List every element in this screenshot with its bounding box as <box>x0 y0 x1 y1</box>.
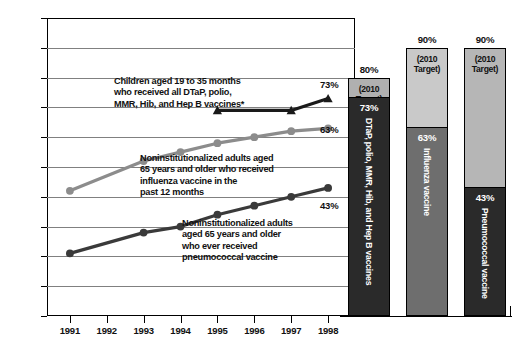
end-label-pneumococcal: 43% <box>320 200 338 211</box>
annotation-line: Children aged 19 to 35 months <box>114 76 244 87</box>
bar-current-segment-influenza: 63%Influenza vaccine <box>407 127 447 315</box>
annotation-dtap: Children aged 19 to 35 monthswho receive… <box>114 76 244 110</box>
bar-current-segment-dtap: 73%DTaP, polio, MMR, Hib, and Hep B vacc… <box>349 97 389 315</box>
chart-canvas: 0%10%20%30%40%50%60%70%80%90%100% 199119… <box>0 0 522 344</box>
bar-baseline-end-tick <box>510 306 511 317</box>
end-label-influenza: 63% <box>320 124 338 135</box>
bar-vertical-label-dtap: DTaP, polio, MMR, Hib, and Hep B vaccine… <box>364 118 374 285</box>
annotation-influenza: Noninstitutionalized adults aged65 years… <box>140 153 274 199</box>
annotation-line: 65 years and older who received <box>140 164 274 175</box>
annotation-line: MMR, Hib, and Hep B vaccines* <box>114 99 244 110</box>
bar-baseline <box>340 316 512 317</box>
bar-target-caption-line: (2010 <box>465 54 505 64</box>
bar-target-segment-dtap: (2010Target) <box>349 79 389 100</box>
data-point-marker <box>66 187 74 195</box>
annotation-line: Noninstitutionalized adults <box>182 218 293 229</box>
bar-panel: 80%(2010Target)73%DTaP, polio, MMR, Hib,… <box>340 0 522 344</box>
bar-target-label-dtap: 80% <box>348 64 390 75</box>
annotation-line: influenza vaccine in the <box>140 176 274 187</box>
bar-target-caption-pneumococcal: (2010Target) <box>465 54 505 74</box>
data-point-marker <box>140 229 148 237</box>
bar-target-segment-pneumococcal: (2010Target) <box>465 49 505 189</box>
annotation-line: past 12 months <box>140 187 274 198</box>
annotation-line: Noninstitutionalized adults aged <box>140 153 274 164</box>
annotation-line: aged 65 years and older <box>182 229 293 240</box>
data-point-marker <box>287 127 295 135</box>
line-chart-panel: 0%10%20%30%40%50%60%70%80%90%100% 199119… <box>0 0 360 344</box>
annotation-line: who ever received <box>182 241 293 252</box>
annotation-line: who received all DTaP, polio, <box>114 87 244 98</box>
bar-target-label-pneumococcal: 90% <box>464 34 506 45</box>
bar-pneumococcal: (2010Target)43%Pneumococcal vaccine <box>464 48 506 316</box>
data-point-marker <box>324 184 332 192</box>
bar-influenza: (2010Target)63%Influenza vaccine <box>406 48 448 316</box>
bar-target-caption-line: (2010 <box>349 84 389 94</box>
bar-vertical-label-influenza: Influenza vaccine <box>422 148 432 216</box>
bar-target-caption-line: Target) <box>407 64 447 74</box>
bar-target-caption-line: Target) <box>465 64 505 74</box>
bar-dtap: (2010Target)73%DTaP, polio, MMR, Hib, an… <box>348 78 390 316</box>
data-point-marker <box>250 133 258 141</box>
data-point-marker <box>287 193 295 201</box>
data-point-marker <box>66 250 74 258</box>
end-label-dtap: 73% <box>320 79 338 90</box>
bar-target-caption-influenza: (2010Target) <box>407 54 447 74</box>
bar-target-caption-line: (2010 <box>407 54 447 64</box>
annotation-pneumococcal: Noninstitutionalized adultsaged 65 years… <box>182 218 293 264</box>
bar-current-label-influenza: 63% <box>407 132 447 143</box>
data-point-marker <box>214 139 222 147</box>
bar-current-segment-pneumococcal: 43%Pneumococcal vaccine <box>465 187 505 315</box>
annotation-line: pneumococcal vaccine <box>182 252 293 263</box>
data-point-marker <box>250 202 258 210</box>
bar-current-label-pneumococcal: 43% <box>465 192 505 203</box>
bar-vertical-label-pneumococcal: Pneumococcal vaccine <box>480 208 490 299</box>
bar-target-label-influenza: 90% <box>406 34 448 45</box>
bar-target-segment-influenza: (2010Target) <box>407 49 447 129</box>
bar-current-label-dtap: 73% <box>349 102 389 113</box>
